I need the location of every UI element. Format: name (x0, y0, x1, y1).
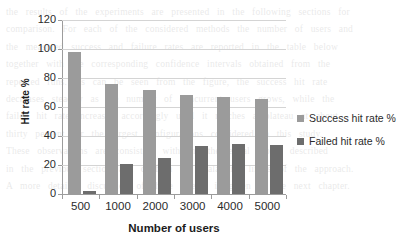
plot-area (62, 20, 286, 194)
bar-success (255, 99, 268, 194)
bar-group (174, 20, 211, 194)
x-axis-tick (286, 195, 287, 199)
bar-success (143, 90, 156, 194)
legend-swatch-icon (297, 138, 304, 145)
x-axis-tick (174, 195, 175, 199)
x-axis-tick (211, 195, 212, 199)
y-axis-tick-label: 100 (12, 42, 56, 54)
x-axis-tick (249, 195, 250, 199)
y-axis-tick-label: 80 (12, 71, 56, 83)
y-axis-tick-label: 60 (12, 100, 56, 112)
x-axis-tick (99, 195, 100, 199)
y-axis-tick-label: 40 (12, 129, 56, 141)
x-axis-title: Number of users (62, 222, 286, 234)
bar-group (249, 20, 286, 194)
bar-group (62, 20, 99, 194)
bar-failed (158, 158, 171, 194)
bar-success (105, 84, 118, 194)
legend-item[interactable]: Success hit rate % (297, 112, 415, 124)
bar-failed (83, 191, 96, 194)
bar-failed (270, 145, 283, 194)
bar-failed (232, 144, 245, 194)
bar-failed (195, 146, 208, 194)
legend-label: Success hit rate % (309, 112, 396, 124)
legend-label: Failed hit rate % (309, 135, 385, 147)
y-axis-tick-label: 20 (12, 158, 56, 170)
bar-group (137, 20, 174, 194)
bar-group (211, 20, 248, 194)
y-axis-tick-label: 0 (12, 187, 56, 199)
bar-chart: Hit rate % 020406080100120 5001000200030… (0, 0, 418, 249)
legend: Success hit rate %Failed hit rate % (297, 112, 415, 158)
bar-group (99, 20, 136, 194)
legend-swatch-icon (297, 115, 304, 122)
bar-success (180, 95, 193, 194)
x-axis-tick-label: 5000 (244, 200, 290, 212)
bar-success (68, 52, 81, 194)
bar-success (217, 97, 230, 194)
legend-item[interactable]: Failed hit rate % (297, 135, 415, 147)
bar-failed (120, 164, 133, 194)
x-axis-tick (62, 195, 63, 199)
x-axis-tick (137, 195, 138, 199)
y-axis-tick-label: 120 (12, 13, 56, 25)
